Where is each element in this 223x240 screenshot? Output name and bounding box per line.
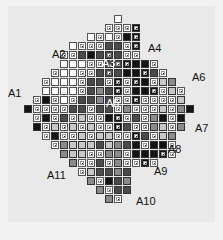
region-label-a1: A1 (8, 88, 21, 99)
cell-marker-icon (62, 107, 66, 111)
cell-marker-icon (44, 80, 48, 84)
grid-cell (87, 87, 95, 95)
region-label-a2: A2 (52, 49, 65, 60)
grid-cell (105, 141, 113, 149)
cell-marker-icon (80, 125, 84, 129)
grid-cell (123, 51, 131, 59)
cell-marker-icon (134, 125, 138, 129)
grid-cell (141, 123, 149, 131)
grid-cell (87, 159, 95, 167)
cell-marker-icon (125, 80, 129, 84)
cell-marker-icon (134, 107, 138, 111)
grid-cell (114, 78, 122, 86)
cell-marker-icon (125, 116, 129, 120)
cell-marker-icon (125, 89, 129, 93)
grid-cell (150, 132, 158, 140)
grid-cell (78, 69, 86, 77)
grid-cell (96, 87, 104, 95)
grid-cell (105, 186, 113, 194)
grid-cell (78, 114, 86, 122)
grid-cell (123, 87, 131, 95)
grid-cell (123, 105, 131, 113)
grid-cell (78, 87, 86, 95)
grid-cell (69, 87, 77, 95)
cell-marker-icon (125, 98, 129, 102)
grid-cell (69, 96, 77, 104)
cell-marker-icon (89, 107, 93, 111)
cell-marker-icon (152, 89, 156, 93)
cell-marker-icon (98, 125, 102, 129)
grid-cell (96, 69, 104, 77)
grid-cell (159, 87, 167, 95)
grid-cell (114, 159, 122, 167)
cell-marker-icon (80, 71, 84, 75)
grid-cell (177, 114, 185, 122)
cell-marker-icon (152, 107, 156, 111)
grid-cell (168, 132, 176, 140)
region-label-a5: A5 (106, 98, 119, 109)
grid-cell (60, 150, 68, 158)
grid-cell (114, 132, 122, 140)
cell-marker-icon (161, 152, 165, 156)
grid-cell (96, 132, 104, 140)
cell-marker-icon (107, 188, 111, 192)
cell-marker-icon (89, 71, 93, 75)
grid-cell (96, 114, 104, 122)
grid-cell (51, 123, 59, 131)
region-label-a11: A11 (47, 170, 66, 181)
cell-marker-icon (152, 80, 156, 84)
cell-marker-icon (125, 53, 129, 57)
grid-cell (42, 78, 50, 86)
grid-cell (123, 177, 131, 185)
region-label-a4: A4 (148, 43, 161, 54)
grid-cell (96, 105, 104, 113)
cell-marker-icon (125, 152, 129, 156)
grid-cell (60, 141, 68, 149)
grid-cell (60, 87, 68, 95)
grid-cell (78, 141, 86, 149)
grid-cell (114, 141, 122, 149)
grid-cell (87, 123, 95, 131)
grid-cell (159, 123, 167, 131)
grid-cell (168, 78, 176, 86)
grid-cell (141, 141, 149, 149)
cell-marker-icon (161, 98, 165, 102)
grid-cell (96, 141, 104, 149)
cell-marker-icon (98, 116, 102, 120)
grid-cell (168, 105, 176, 113)
grid-cell (141, 78, 149, 86)
grid-cell (177, 87, 185, 95)
grid-cell (150, 60, 158, 68)
grid-cell (69, 114, 77, 122)
grid-cell (114, 33, 122, 41)
cell-marker-icon (125, 134, 129, 138)
grid-cell (87, 96, 95, 104)
cell-marker-icon (107, 125, 111, 129)
cell-marker-icon (152, 98, 156, 102)
grid-cell (42, 114, 50, 122)
cell-marker-icon (143, 125, 147, 129)
grid-cell (42, 132, 50, 140)
grid-cell (96, 150, 104, 158)
grid-cell (33, 96, 41, 104)
grid-cell (132, 78, 140, 86)
grid-cell (105, 78, 113, 86)
cell-marker-icon (116, 134, 120, 138)
grid-cell (105, 87, 113, 95)
grid-cell (78, 123, 86, 131)
cell-marker-icon (125, 62, 129, 66)
cell-marker-icon (125, 44, 129, 48)
cell-marker-icon (116, 35, 120, 39)
grid-cell (150, 96, 158, 104)
grid-cell (123, 33, 131, 41)
cell-marker-icon (116, 197, 120, 201)
cell-marker-icon (71, 116, 75, 120)
cell-marker-icon (143, 71, 147, 75)
grid-cell (69, 141, 77, 149)
grid-cell (159, 96, 167, 104)
grid-cell (168, 114, 176, 122)
grid-cell (114, 186, 122, 194)
cell-marker-icon (80, 170, 84, 174)
cell-marker-icon (107, 161, 111, 165)
cell-marker-icon (89, 116, 93, 120)
